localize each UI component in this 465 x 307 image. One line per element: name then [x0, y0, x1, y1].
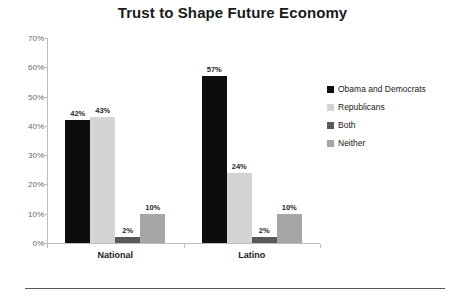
bottom-divider	[25, 288, 445, 289]
x-axis-tick-mark	[184, 244, 185, 248]
legend-item: Republicans	[327, 98, 426, 116]
bar	[90, 117, 115, 243]
legend-item-label: Both	[338, 120, 356, 130]
category-label: Latino	[238, 250, 265, 260]
bar-value-label: 2%	[122, 226, 133, 235]
bar-value-label: 42%	[70, 109, 85, 118]
chart-screenshot: Trust to Shape Future Economy 0%10%20%30…	[0, 0, 465, 307]
bar-value-label: 10%	[145, 203, 160, 212]
bar	[227, 173, 252, 243]
bar-value-label: 43%	[95, 106, 110, 115]
legend-swatch-icon	[327, 122, 334, 129]
legend-item-label: Obama and Democrats	[338, 84, 426, 94]
bar	[252, 237, 277, 243]
y-axis-tick-label: 30%	[0, 151, 44, 160]
legend-item: Both	[327, 116, 426, 134]
legend-item: Obama and Democrats	[327, 80, 426, 98]
bar-value-label: 10%	[282, 203, 297, 212]
bar-value-label: 24%	[232, 162, 247, 171]
legend-item-label: Neither	[338, 138, 365, 148]
y-axis-tick-label: 20%	[0, 180, 44, 189]
legend-swatch-icon	[327, 140, 334, 147]
y-axis-tick-label: 60%	[0, 63, 44, 72]
legend-swatch-icon	[327, 86, 334, 93]
bar	[115, 237, 140, 243]
bar-value-label: 2%	[259, 226, 270, 235]
legend-item-label: Republicans	[338, 102, 385, 112]
y-axis-tick-label: 40%	[0, 121, 44, 130]
y-axis-tick-label: 50%	[0, 92, 44, 101]
chart-legend: Obama and DemocratsRepublicansBothNeithe…	[327, 80, 426, 152]
bar-value-label: 57%	[207, 65, 222, 74]
plot-area	[47, 38, 320, 243]
bar	[202, 76, 227, 243]
bar	[277, 214, 302, 243]
y-axis-tick-label: 10%	[0, 209, 44, 218]
y-axis-tick-label: 0%	[0, 239, 44, 248]
y-axis-tick-label: 70%	[0, 34, 44, 43]
legend-swatch-icon	[327, 104, 334, 111]
legend-item: Neither	[327, 134, 426, 152]
x-axis-tick-mark	[320, 244, 321, 248]
category-label: National	[97, 250, 133, 260]
chart-title: Trust to Shape Future Economy	[0, 4, 465, 21]
bar	[65, 120, 90, 243]
x-axis-tick-mark	[47, 244, 48, 248]
bar	[140, 214, 165, 243]
